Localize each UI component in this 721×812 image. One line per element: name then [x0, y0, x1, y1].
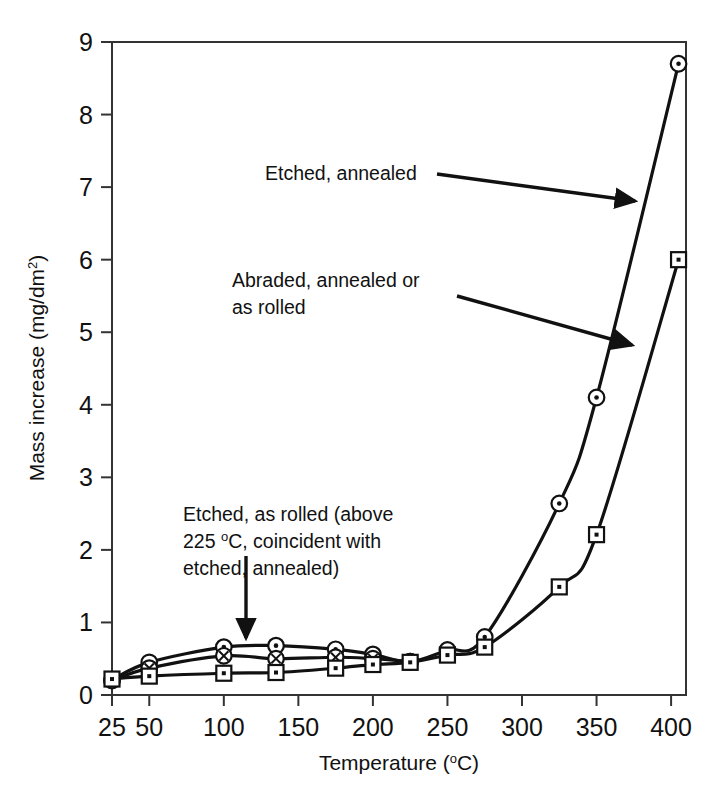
y-tick-label: 1	[79, 608, 93, 636]
x-tick-label: 50	[135, 713, 163, 741]
marker-center-dot	[408, 660, 412, 664]
y-tick-label: 0	[79, 681, 93, 709]
x-tick-label: 150	[278, 713, 320, 741]
marker-center-dot	[274, 643, 279, 648]
marker-center-dot	[334, 666, 338, 670]
x-tick-label: 100	[203, 713, 245, 741]
marker-center-dot	[557, 585, 561, 589]
y-tick-label: 8	[79, 101, 93, 129]
x-tick-label: 350	[576, 713, 618, 741]
x-tick-label: 250	[427, 713, 469, 741]
y-tick-label: 5	[79, 318, 93, 346]
marker-center-dot	[595, 533, 599, 537]
x-tick-label: 25	[98, 713, 126, 741]
y-axis-title: Mass increase (mg/dm2)	[25, 255, 49, 482]
marker-center-dot	[222, 671, 226, 675]
marker-center-dot	[445, 653, 449, 657]
marker-center-dot	[676, 61, 681, 66]
figure-container: 2550100150200250300350400 0123456789 Etc…	[0, 0, 721, 812]
y-tick-label: 6	[79, 246, 93, 274]
mass-increase-vs-temperature-chart: 2550100150200250300350400 0123456789 Etc…	[0, 0, 721, 812]
y-tick-label: 9	[79, 28, 93, 56]
x-tick-label: 300	[501, 713, 543, 741]
marker-center-dot	[371, 663, 375, 667]
marker-center-dot	[483, 645, 487, 649]
marker-center-dot	[110, 677, 114, 681]
y-tick-label: 2	[79, 536, 93, 564]
marker-center-dot	[594, 395, 599, 400]
marker-center-dot	[274, 671, 278, 675]
y-tick-label: 4	[79, 391, 93, 419]
y-tick-label: 3	[79, 463, 93, 491]
x-tick-label: 400	[650, 713, 692, 741]
marker-center-dot	[147, 674, 151, 678]
marker-center-dot	[677, 258, 681, 262]
y-tick-label: 7	[79, 173, 93, 201]
annotation-label: Etched, annealed	[265, 162, 417, 184]
x-tick-label: 200	[352, 713, 394, 741]
chart-background	[0, 0, 721, 812]
marker-center-dot	[557, 501, 562, 506]
